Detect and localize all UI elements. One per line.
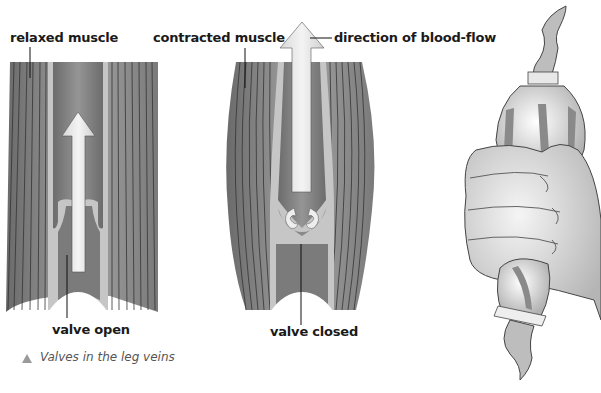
label-direction-of-blood-flow: direction of blood-flow	[334, 30, 496, 45]
label-relaxed-muscle: relaxed muscle	[10, 30, 118, 45]
label-valve-closed: valve closed	[270, 324, 358, 339]
contracted-muscle-panel	[226, 22, 374, 325]
hand-squeezing-balloon	[465, 6, 601, 380]
relaxed-muscle-panel	[6, 47, 158, 318]
label-contracted-muscle: contracted muscle	[153, 30, 285, 45]
triangle-icon	[22, 354, 32, 363]
figure-caption: Valves in the leg veins	[40, 350, 175, 364]
label-valve-open: valve open	[52, 322, 130, 337]
